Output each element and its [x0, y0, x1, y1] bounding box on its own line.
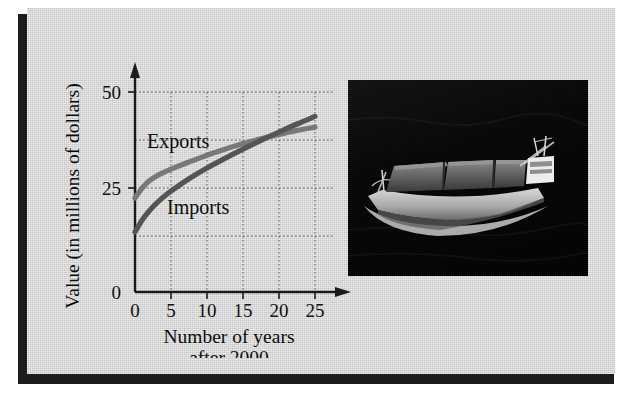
line-chart: 50 25 0 0 5 10 15 20 25 Exports Imports …: [57, 28, 357, 358]
grid-vertical: [171, 92, 315, 292]
series-label-imports: Imports: [167, 196, 229, 219]
y-axis-title: Value (in millions of dollars): [62, 83, 84, 308]
figure-page: 50 25 0 0 5 10 15 20 25 Exports Imports …: [0, 0, 631, 405]
x-tick-label-0: 0: [130, 300, 140, 321]
series-label-exports: Exports: [147, 130, 209, 153]
x-tick-label-25: 25: [306, 300, 325, 321]
x-tick-label-10: 10: [198, 300, 217, 321]
x-tick-label-20: 20: [270, 300, 289, 321]
x-axis-title-line1: Number of years: [163, 326, 294, 347]
grid-horizontal: [135, 92, 333, 236]
cargo-ship-photo: [348, 80, 588, 276]
y-tick-label-25: 25: [102, 178, 121, 199]
chart-svg: 50 25 0 0 5 10 15 20 25 Exports Imports …: [57, 28, 357, 358]
y-tick-label-50: 50: [102, 82, 121, 103]
y-axis: [130, 62, 140, 292]
x-tick-label-5: 5: [166, 300, 176, 321]
figure-panel: 50 25 0 0 5 10 15 20 25 Exports Imports …: [27, 8, 615, 374]
y-tick-label-0: 0: [112, 282, 122, 303]
x-axis-title-line2: after 2000: [189, 347, 269, 358]
cargo-ship-photo-svg: [348, 80, 588, 276]
x-tick-label-15: 15: [234, 300, 253, 321]
